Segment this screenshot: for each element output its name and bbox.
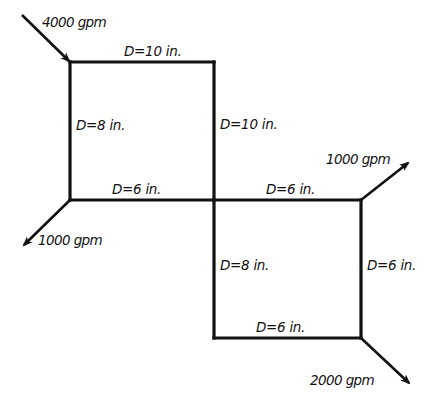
pipe-label-bottom-horizontal: D=6 in. — [256, 319, 305, 335]
flow-label-outflow-bottom-right: 2000 gpm — [310, 372, 375, 388]
pipe-label-left-vertical: D=8 in. — [76, 117, 125, 133]
pipe-label-right-vertical: D=6 in. — [367, 257, 416, 273]
pipe-label-top-left-horizontal: D=10 in. — [124, 43, 181, 59]
pipe-network-diagram: D=10 in. D=8 in. D=10 in. D=6 in. D=6 in… — [0, 0, 441, 400]
flow-label-inflow: 4000 gpm — [42, 14, 107, 30]
pipe-label-middle-right-horizontal: D=6 in. — [266, 181, 315, 197]
pipe-label-middle-left-horizontal: D=6 in. — [112, 181, 161, 197]
pipe-label-center-upper-vertical: D=10 in. — [220, 116, 277, 132]
pipe-label-center-lower-vertical: D=8 in. — [220, 257, 269, 273]
outflow-right-upper-arrow-icon — [361, 163, 408, 200]
flow-label-outflow-left: 1000 gpm — [38, 232, 103, 248]
flow-label-outflow-right-upper: 1000 gpm — [326, 151, 391, 167]
